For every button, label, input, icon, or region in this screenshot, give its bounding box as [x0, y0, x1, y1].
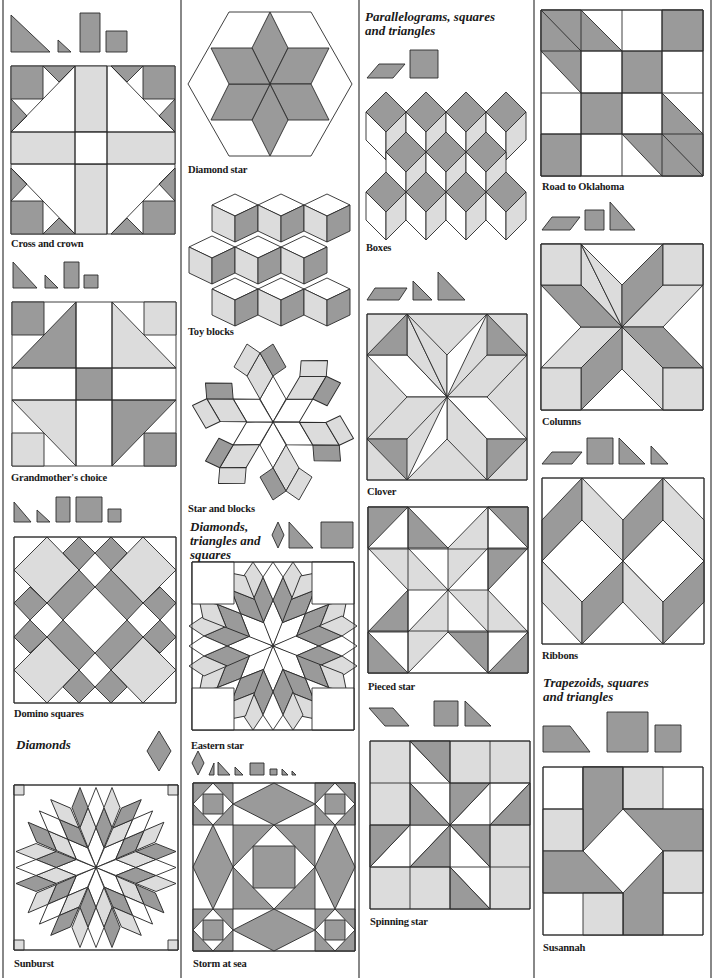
quilt-block-grandmothers-choice: [12, 302, 176, 466]
block-label: Susannah: [543, 942, 585, 953]
quilt-block-susannah: [543, 767, 703, 935]
quilt-block-diamond-star: [188, 8, 352, 158]
quilt-block-eastern-star: [192, 562, 354, 730]
block-label: Sunburst: [14, 958, 54, 969]
template-shapes-grandmothers-choice: [0, 258, 180, 293]
section-heading-diamonds-triangles-squares: Diamonds, triangles and squares: [190, 520, 260, 562]
template-shapes-cross-and-crown: [0, 0, 180, 60]
quilt-block-ribbons: [542, 478, 704, 644]
block-label: Pieced star: [368, 681, 415, 692]
quilt-block-spinning-star: [370, 741, 530, 909]
block-label: Domino squares: [14, 708, 84, 719]
quilt-block-star-and-blocks: [190, 343, 356, 501]
block-label: Clover: [367, 486, 396, 497]
column-divider: [358, 0, 360, 978]
quilt-block-storm-at-sea: [193, 783, 355, 951]
block-label: Grandmother's choice: [11, 472, 107, 483]
template-shapes-susannah: [530, 710, 713, 760]
template-shapes-ribbons: [530, 434, 713, 468]
quilt-block-pieced-star: [368, 507, 528, 673]
column-divider: [180, 0, 182, 978]
block-label: Ribbons: [542, 650, 578, 661]
block-label: Spinning star: [370, 916, 428, 927]
section-heading-diamonds: Diamonds: [16, 738, 71, 752]
block-label: Star and blocks: [188, 503, 255, 514]
quilt-block-domino-squares: [14, 537, 176, 703]
block-label: Cross and crown: [11, 238, 83, 249]
column-divider: [710, 0, 712, 978]
template-shapes-eastern-star: [270, 520, 360, 552]
section-heading-parallelograms: Parallelograms, squares and triangles: [365, 10, 495, 38]
block-label: Boxes: [366, 242, 391, 253]
template-shapes-domino-squares: [0, 492, 180, 527]
quilt-block-columns: [541, 244, 703, 410]
template-shapes-spinning-star: [360, 700, 540, 730]
template-shapes-storm-at-sea: [190, 750, 360, 780]
quilt-block-sunburst: [14, 785, 178, 950]
block-label: Diamond star: [188, 164, 247, 175]
template-shapes-clover: [360, 270, 540, 304]
template-shapes-boxes: [360, 48, 540, 82]
block-label: Columns: [542, 416, 581, 427]
column-divider: [533, 0, 535, 978]
quilt-block-boxes: [366, 92, 528, 232]
quilt-block-toy-blocks: [190, 180, 356, 320]
quilt-block-road-to-oklahoma: [541, 10, 703, 176]
quilt-block-cross-and-crown: [11, 66, 175, 234]
template-shape-diamond: [146, 730, 174, 772]
quilt-block-clover: [367, 314, 527, 480]
block-label: Road to Oklahoma: [542, 181, 624, 192]
block-label: Toy blocks: [188, 326, 234, 337]
block-label: Storm at sea: [193, 958, 247, 969]
section-heading-trapezoids: Trapezoids, squares and triangles: [543, 676, 649, 704]
column-divider: [2, 0, 4, 978]
template-shapes-columns: [530, 200, 713, 234]
